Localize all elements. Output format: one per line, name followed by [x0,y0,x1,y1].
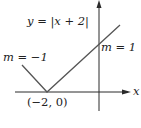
graph: y = |x + 2| m = −1 m = 1 (−2, 0) x [0,0,141,128]
y-axis-arrow-icon [97,0,102,8]
vertex-label: (−2, 0) [27,95,68,109]
slope-left-label: m = −1 [3,50,48,64]
x-axis-label: x [133,84,140,98]
x-axis-arrow-icon [122,90,131,95]
slope-right-label: m = 1 [101,40,136,54]
equation-label: y = |x + 2| [26,14,89,29]
